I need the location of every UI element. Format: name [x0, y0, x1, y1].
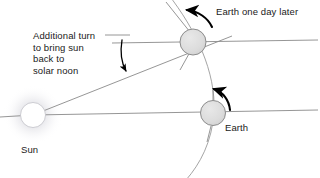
annotation-label: Additional turn to bring sun back to sol… — [33, 30, 95, 76]
solar-day-diagram-svg — [0, 0, 320, 178]
sun-label: Sun — [21, 144, 38, 156]
upper-earth-axis-line — [166, 2, 190, 32]
diagram-canvas: Additional turn to bring sun back to sol… — [0, 0, 320, 178]
sun-earth-reference-line — [33, 110, 318, 115]
additional-turn-angle-arrow — [121, 40, 126, 71]
earth-label: Earth — [225, 122, 248, 134]
orbit-arc — [168, 0, 214, 178]
sun-body — [21, 103, 46, 128]
earth-body — [201, 101, 226, 126]
earth-one-day-later-label: Earth one day later — [216, 6, 298, 18]
earth-one-day-later-body — [180, 29, 206, 55]
rotation-arrow-earth-one-day-later — [187, 10, 212, 27]
